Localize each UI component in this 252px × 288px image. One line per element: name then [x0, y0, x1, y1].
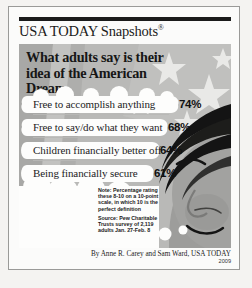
bar-row: Free to accomplish anything 74% — [19, 95, 231, 117]
registered-trademark-icon: ® — [158, 23, 164, 32]
bar-value: 64% — [160, 144, 182, 156]
note-text: Note: Percentage rating these 8-10 on a … — [98, 187, 164, 212]
bar-row: Free to say/do what they want 68% — [19, 118, 231, 140]
note-block: Note: Percentage rating these 8-10 on a … — [98, 187, 164, 233]
bar-row: Children financially better off 64% — [19, 141, 231, 163]
bar-label: Free to accomplish anything — [33, 98, 155, 110]
copyright-year: 2009 — [19, 258, 231, 264]
snapshot-infographic: USA TODAY Snapshots® — [0, 0, 252, 288]
source-text: Source: Pew Charitable Trusts survey of … — [98, 215, 164, 234]
illustration-panel: What adults say is their idea of the Ame… — [19, 44, 231, 248]
byline: By Anne R. Carey and Sam Ward, USA TODAY — [19, 250, 231, 258]
logo-text: USA TODAY Snapshots — [19, 23, 158, 39]
source-label: Source: — [98, 215, 118, 221]
note-label: Note: — [98, 187, 112, 193]
bar-value: 61% — [154, 167, 176, 179]
usa-today-snapshots-logo: USA TODAY Snapshots® — [19, 23, 231, 42]
bar-value: 74% — [179, 98, 201, 110]
bar-value: 68% — [168, 121, 190, 133]
bar-label: Being financially secure — [33, 167, 138, 179]
bar-row: Being financially secure 61% — [19, 164, 231, 186]
bar-label: Free to say/do what they want — [33, 121, 162, 133]
bar-label: Children financially better off — [33, 144, 161, 156]
top-rule-divider — [19, 17, 231, 21]
